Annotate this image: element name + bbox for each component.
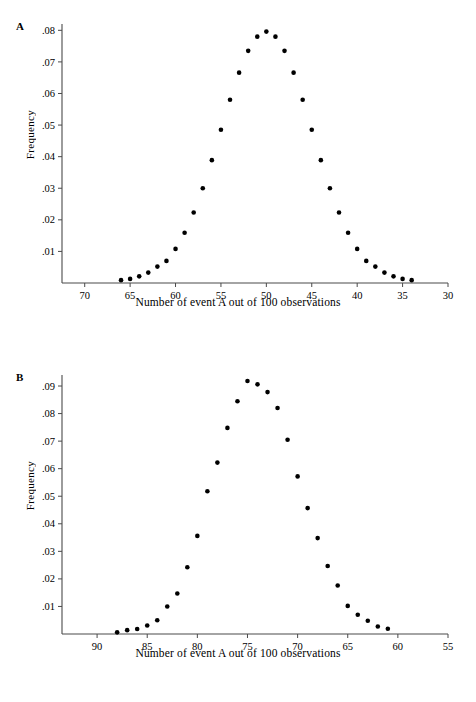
data-point (228, 98, 233, 103)
data-point (309, 128, 314, 133)
data-point (235, 399, 240, 404)
data-point (282, 49, 287, 54)
data-point (165, 604, 170, 609)
data-point (115, 630, 120, 635)
data-point (200, 186, 205, 191)
data-point (245, 379, 250, 384)
data-point (246, 49, 251, 54)
data-point (237, 70, 242, 75)
panel-a-x-axis-label: Number of event A out of 100 observation… (0, 296, 476, 308)
data-point (285, 437, 290, 442)
data-point (119, 278, 124, 283)
panel-b-x-axis-label: Number of event A out of 100 observation… (0, 647, 476, 659)
data-point (255, 34, 260, 39)
panel-b-plot: .01.02.03.04.05.06.07.08.099085807570656… (0, 351, 476, 671)
data-point (255, 382, 260, 387)
data-point (219, 128, 224, 133)
panel-a: A Frequency .01.02.03.04.05.06.07.087065… (0, 0, 476, 351)
data-point (315, 536, 320, 541)
y-tick-label: .02 (42, 214, 55, 225)
data-point (155, 264, 160, 269)
data-point (137, 274, 142, 279)
data-point (386, 626, 391, 631)
panel-b: B Frequency .01.02.03.04.05.06.07.08.099… (0, 351, 476, 702)
y-tick-label: .03 (42, 183, 55, 194)
data-point (225, 426, 230, 431)
y-tick-label: .03 (42, 546, 55, 557)
data-point (373, 264, 378, 269)
data-point (128, 277, 133, 282)
data-point (346, 230, 351, 235)
data-point (173, 247, 178, 252)
y-tick-label: .08 (42, 408, 55, 419)
data-point (291, 70, 296, 75)
data-point (215, 460, 220, 465)
data-point (300, 98, 305, 103)
data-point (319, 158, 324, 163)
y-tick-label: .01 (42, 246, 55, 257)
data-point (175, 591, 180, 596)
y-tick-label: .05 (42, 120, 55, 131)
data-point (264, 29, 269, 34)
data-point (145, 623, 150, 628)
data-point (335, 583, 340, 588)
data-point (365, 618, 370, 623)
data-point (355, 247, 360, 252)
data-point (164, 259, 169, 264)
data-point (305, 506, 310, 511)
data-point (400, 277, 405, 282)
y-tick-label: .06 (42, 88, 55, 99)
data-point (273, 34, 278, 39)
y-tick-label: .02 (42, 573, 55, 584)
data-point (210, 158, 215, 163)
data-point (364, 259, 369, 264)
data-point (376, 624, 381, 629)
data-point (409, 278, 414, 283)
y-tick-label: .06 (42, 463, 55, 474)
data-point (195, 534, 200, 539)
data-point (275, 406, 280, 411)
data-point (135, 627, 140, 632)
y-tick-label: .08 (42, 25, 55, 36)
y-tick-label: .04 (42, 151, 56, 162)
y-tick-label: .09 (42, 381, 55, 392)
data-point (191, 210, 196, 215)
data-point (391, 274, 396, 279)
data-point (185, 565, 190, 570)
data-point (265, 390, 270, 395)
data-point (355, 612, 360, 617)
data-point (325, 564, 330, 569)
data-point (205, 489, 210, 494)
y-tick-label: .05 (42, 491, 55, 502)
data-point (125, 628, 130, 633)
data-point (146, 270, 151, 275)
data-point (295, 474, 300, 479)
y-tick-label: .04 (42, 518, 56, 529)
y-tick-label: .01 (42, 601, 55, 612)
data-point (345, 604, 350, 609)
data-point (382, 270, 387, 275)
panel-a-plot: .01.02.03.04.05.06.07.087065605550454035… (0, 0, 476, 320)
data-point (337, 210, 342, 215)
y-tick-label: .07 (42, 436, 55, 447)
data-point (182, 230, 187, 235)
data-point (155, 618, 160, 623)
y-tick-label: .07 (42, 57, 55, 68)
data-point (328, 186, 333, 191)
